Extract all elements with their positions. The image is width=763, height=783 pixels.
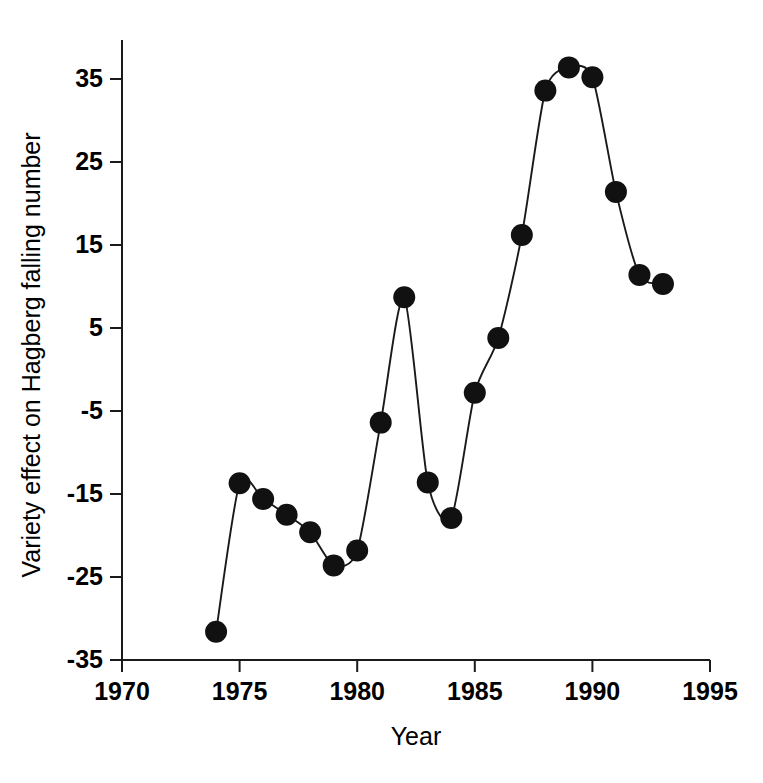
y-tick-label: 5 — [89, 313, 103, 341]
y-axis-ticks: 3525155-5-15-25-35 — [67, 64, 122, 673]
data-point-marker — [205, 621, 227, 643]
y-tick-label: 15 — [75, 230, 103, 258]
data-point-marker — [370, 412, 392, 434]
x-tick-label: 1970 — [94, 677, 150, 705]
line-chart: 3525155-5-15-25-35 197019751980198519901… — [0, 0, 763, 783]
data-point-marker — [534, 80, 556, 102]
data-point-marker — [628, 264, 650, 286]
y-tick-label: -35 — [67, 645, 103, 673]
data-point-marker — [252, 488, 274, 510]
x-tick-label: 1980 — [329, 677, 385, 705]
series-line-path — [216, 66, 663, 632]
x-axis-ticks: 197019751980198519901995 — [94, 660, 738, 705]
x-tick-label: 1985 — [447, 677, 503, 705]
y-tick-label: -5 — [81, 396, 103, 424]
x-tick-label: 1990 — [565, 677, 621, 705]
data-point-marker — [652, 273, 674, 295]
data-point-marker — [417, 471, 439, 493]
data-point-marker — [581, 66, 603, 88]
data-point-marker — [511, 224, 533, 246]
data-point-marker — [323, 554, 345, 576]
x-axis-title: Year — [391, 722, 442, 750]
data-point-marker — [229, 472, 251, 494]
data-point-marker — [440, 507, 462, 529]
chart-svg: 3525155-5-15-25-35 197019751980198519901… — [0, 0, 763, 783]
data-point-marker — [346, 539, 368, 561]
data-point-marker — [605, 181, 627, 203]
chart-page: 3525155-5-15-25-35 197019751980198519901… — [0, 0, 763, 783]
x-tick-label: 1975 — [212, 677, 268, 705]
y-tick-label: 35 — [75, 64, 103, 92]
y-tick-label: -25 — [67, 562, 103, 590]
data-point-marker — [276, 504, 298, 526]
data-point-marker — [393, 286, 415, 308]
series-markers — [205, 56, 674, 642]
y-tick-label: -15 — [67, 479, 103, 507]
data-point-marker — [299, 521, 321, 543]
x-tick-label: 1995 — [682, 677, 738, 705]
data-point-marker — [487, 327, 509, 349]
y-tick-label: 25 — [75, 147, 103, 175]
y-axis-title: Variety effect on Hagberg falling number — [17, 132, 45, 577]
data-point-marker — [464, 382, 486, 404]
data-point-marker — [558, 56, 580, 78]
